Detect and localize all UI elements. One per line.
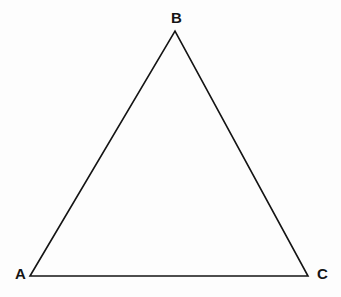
triangle-canvas bbox=[0, 0, 341, 297]
vertex-label-a: A bbox=[15, 266, 26, 281]
triangle-figure: A B C bbox=[0, 0, 341, 297]
vertex-label-b: B bbox=[171, 10, 182, 25]
figure-background bbox=[0, 0, 341, 297]
vertex-label-c: C bbox=[317, 266, 328, 281]
